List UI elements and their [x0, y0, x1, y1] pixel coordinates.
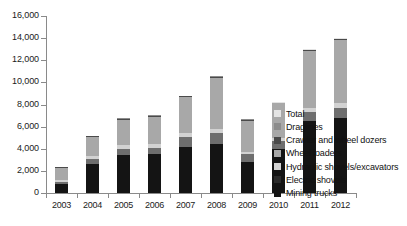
bar-segment[interactable]	[179, 97, 192, 132]
stacked-bar[interactable]	[55, 167, 68, 194]
legend-item[interactable]: Wheel loaders	[274, 148, 398, 159]
legend-label: Wheel loaders	[286, 148, 342, 158]
x-tick-label: 2011	[294, 200, 325, 210]
stacked-bar[interactable]	[210, 76, 223, 193]
chart-legend: TotalDraglinesCrawler and wheel dozersWh…	[274, 108, 398, 199]
legend-item[interactable]: Hydraulic shovels/excavators	[274, 161, 398, 172]
legend-label: Hydraulic shovels/excavators	[286, 162, 398, 172]
bar-segment[interactable]	[117, 149, 130, 156]
y-tick-label: 10,000	[12, 76, 39, 86]
legend-swatch-icon	[274, 163, 281, 170]
bar-segment[interactable]	[334, 40, 347, 103]
y-axis-labels: 02,0004,0006,0008,00010,00012,00014,0001…	[0, 0, 39, 226]
bar-segment[interactable]	[210, 133, 223, 144]
legend-swatch-icon	[274, 137, 281, 144]
bar-segment[interactable]	[117, 120, 130, 145]
legend-item[interactable]: Crawler and wheel dozers	[274, 135, 398, 146]
y-tick-label: 2,000	[17, 165, 39, 175]
legend-item[interactable]: Total	[274, 108, 398, 119]
x-tick-mark	[232, 193, 233, 198]
y-tick-label: 16,000	[12, 10, 39, 20]
bar-segment[interactable]	[86, 164, 99, 193]
legend-swatch-icon	[274, 123, 281, 130]
x-tick-label: 2009	[232, 200, 263, 210]
x-tick-mark	[263, 193, 264, 198]
x-tick-mark	[201, 193, 202, 198]
y-tick-label: 6,000	[17, 121, 39, 131]
x-tick-label: 2006	[139, 200, 170, 210]
legend-swatch-icon	[274, 190, 281, 197]
stacked-bar[interactable]	[148, 115, 161, 194]
legend-swatch-icon	[274, 110, 281, 117]
x-tick-label: 2004	[77, 200, 108, 210]
bar-chart: 02,0004,0006,0008,00010,00012,00014,0001…	[0, 0, 407, 226]
bar-segment[interactable]	[86, 137, 99, 156]
legend-label: Crawler and wheel dozers	[286, 135, 386, 145]
bar-segment[interactable]	[117, 155, 130, 193]
y-tick-label: 12,000	[12, 54, 39, 64]
legend-item[interactable]: Electric shovels	[274, 174, 398, 185]
bar-segment[interactable]	[179, 147, 192, 193]
legend-label: Draglines	[286, 122, 323, 132]
bar-segment[interactable]	[179, 137, 192, 147]
y-tick-label: 4,000	[17, 143, 39, 153]
stacked-bar[interactable]	[241, 119, 254, 193]
x-tick-label: 2003	[46, 200, 77, 210]
legend-label: Mining trucks	[286, 188, 337, 198]
x-tick-label: 2012	[325, 200, 356, 210]
legend-swatch-icon	[274, 150, 281, 157]
stacked-bar[interactable]	[117, 118, 130, 193]
bar-segment[interactable]	[303, 51, 316, 107]
bar-segment[interactable]	[210, 144, 223, 193]
bar-segment[interactable]	[210, 78, 223, 129]
legend-item[interactable]: Draglines	[274, 121, 398, 132]
x-tick-label: 2010	[263, 200, 294, 210]
x-tick-mark	[46, 193, 47, 198]
bar-segment[interactable]	[55, 184, 68, 193]
x-tick-mark	[108, 193, 109, 198]
x-tick-label: 2007	[170, 200, 201, 210]
legend-item[interactable]: Mining trucks	[274, 188, 398, 199]
bar-segment[interactable]	[241, 121, 254, 152]
bar-segment[interactable]	[241, 162, 254, 193]
legend-swatch-icon	[274, 176, 281, 183]
x-tick-mark	[77, 193, 78, 198]
stacked-bar[interactable]	[86, 136, 99, 193]
bar-segment[interactable]	[148, 154, 161, 193]
legend-label: Total	[286, 109, 304, 119]
x-tick-label: 2005	[108, 200, 139, 210]
bar-segment[interactable]	[148, 148, 161, 155]
stacked-bar[interactable]	[179, 96, 192, 193]
x-tick-mark	[170, 193, 171, 198]
legend-label: Electric shovels	[286, 175, 346, 185]
bar-segment[interactable]	[148, 117, 161, 145]
x-tick-label: 2008	[201, 200, 232, 210]
x-tick-mark	[139, 193, 140, 198]
bar-segment[interactable]	[241, 154, 254, 162]
y-tick-label: 8,000	[17, 99, 39, 109]
y-tick-label: 14,000	[12, 32, 39, 42]
bar-segment[interactable]	[55, 168, 68, 180]
y-tick-label: 0	[34, 187, 39, 197]
